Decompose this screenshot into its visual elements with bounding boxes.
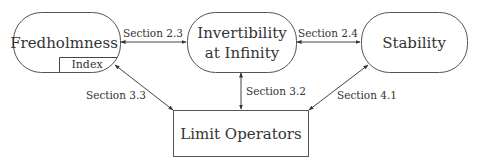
node-invertibility-at-infinity: Invertibility at Infinity [188, 13, 297, 73]
edge-label-section-3-2: Section 3.2 [246, 85, 306, 97]
node-stability: Stability [362, 13, 468, 73]
node-label-limit-operators: Limit Operators [180, 125, 301, 143]
node-label-stability: Stability [382, 34, 446, 52]
node-limit-operators: Limit Operators [174, 111, 309, 157]
edge-fredholm-invertibility: Section 2.3 [121, 27, 186, 42]
node-fredholmness: Fredholmness Index [10, 13, 121, 73]
edge-label-section-2-4: Section 2.4 [298, 27, 358, 39]
edge-invertibility-limit: Section 3.2 [241, 73, 306, 109]
edge-label-section-4-1: Section 4.1 [337, 89, 397, 101]
edge-label-section-3-3: Section 3.3 [86, 89, 146, 101]
diagram: Section 2.3 Section 2.4 Section 3.3 Sect… [0, 0, 480, 166]
node-label-invertibility: Invertibility [197, 24, 287, 42]
edge-label-section-2-3: Section 2.3 [123, 27, 183, 39]
node-label-index: Index [71, 58, 103, 71]
node-label-at-infinity: at Infinity [205, 44, 280, 62]
node-label-fredholmness: Fredholmness [10, 34, 118, 52]
edge-invertibility-stability: Section 2.4 [297, 27, 360, 42]
